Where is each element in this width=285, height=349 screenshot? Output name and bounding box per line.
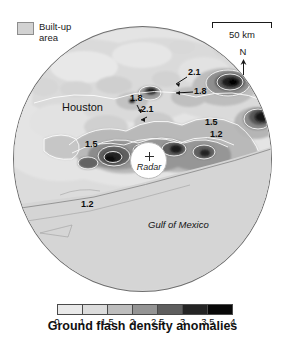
colorbar-title: Ground flash density anomalies (0, 319, 285, 333)
contour-label-1-8-north: 1.8 (194, 86, 207, 96)
contour-label-1-5-west: 1.5 (85, 139, 98, 149)
colorbar-segment-1.5-2 (108, 305, 133, 314)
contour-label-1-2-south: 1.2 (81, 199, 94, 209)
contour-label-1-2-east: 1.2 (210, 129, 223, 139)
colorbar-segment-2-2.5 (133, 305, 158, 314)
colorbar-segment-2.5-3 (158, 305, 183, 314)
colorbar-segment-3-3.5 (183, 305, 208, 314)
contour-label-1-8-houston: 1.8 (130, 93, 143, 103)
contour-label-1-5-east: 1.5 (205, 117, 218, 127)
contour-leader-lines (0, 0, 285, 349)
figure-root: Built-up area 50 km N (0, 0, 285, 349)
colorbar-segment-3.5-4 (208, 305, 232, 314)
contour-label-2-1-north: 2.1 (188, 67, 201, 77)
contour-label-2-1-houston: 2.1 (141, 104, 154, 114)
colorbar-segment-0-1 (58, 305, 83, 314)
colorbar-gradient (57, 304, 233, 315)
colorbar-segment-1-1.5 (83, 305, 108, 314)
